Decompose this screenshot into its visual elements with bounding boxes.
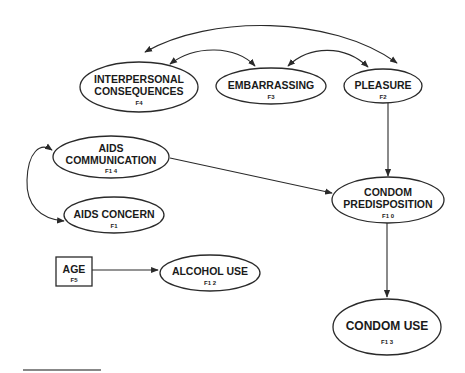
svg-text:F5: F5 — [70, 277, 78, 283]
svg-text:F1 2: F1 2 — [204, 280, 217, 286]
svg-text:ALCOHOL USE: ALCOHOL USE — [172, 265, 248, 277]
edge-aidscomm-condom-predisposition — [170, 158, 332, 193]
svg-text:F1: F1 — [110, 223, 118, 229]
node-pleasure: PLEASURE F2 — [344, 69, 422, 103]
svg-text:EMBARRASSING: EMBARRASSING — [228, 79, 314, 91]
svg-text:F4: F4 — [135, 100, 143, 106]
svg-text:AIDS CONCERN: AIDS CONCERN — [73, 208, 154, 220]
node-interpersonal-consequences: INTERPERSONAL CONSEQUENCES F4 — [80, 62, 198, 112]
node-embarrassing: EMBARRASSING F3 — [216, 68, 326, 104]
node-alcohol-use: ALCOHOL USE F1 2 — [160, 255, 260, 291]
svg-text:F1 4: F1 4 — [105, 168, 118, 174]
svg-text:PREDISPOSITION: PREDISPOSITION — [343, 198, 432, 210]
svg-text:CONDOM USE: CONDOM USE — [346, 319, 429, 333]
svg-text:INTERPERSONAL: INTERPERSONAL — [94, 73, 184, 85]
edge-interpersonal-embarrassing — [170, 50, 255, 66]
svg-text:COMMUNICATION: COMMUNICATION — [66, 154, 157, 166]
edge-embarrassing-pleasure — [288, 50, 368, 67]
svg-text:F3: F3 — [267, 94, 275, 100]
svg-text:PLEASURE: PLEASURE — [354, 79, 411, 91]
node-condom-use: CONDOM USE F1 3 — [333, 299, 441, 355]
svg-text:F2: F2 — [379, 94, 387, 100]
node-condom-predisposition: CONDOM PREDISPOSITION F1 0 — [332, 177, 444, 223]
path-diagram: INTERPERSONAL CONSEQUENCES F4 EMBARRASSI… — [0, 0, 465, 373]
edge-interpersonal-pleasure — [145, 25, 397, 63]
svg-text:AGE: AGE — [63, 263, 86, 275]
node-aids-concern: AIDS CONCERN F1 — [64, 197, 164, 233]
svg-text:CONDOM: CONDOM — [364, 186, 412, 198]
node-age: AGE F5 — [56, 257, 92, 286]
svg-text:AIDS: AIDS — [98, 142, 123, 154]
svg-text:CONSEQUENCES: CONSEQUENCES — [94, 85, 183, 97]
node-aids-communication: AIDS COMMUNICATION F1 4 — [53, 136, 169, 178]
svg-text:F1 0: F1 0 — [382, 213, 395, 219]
svg-text:F1 3: F1 3 — [381, 339, 394, 345]
